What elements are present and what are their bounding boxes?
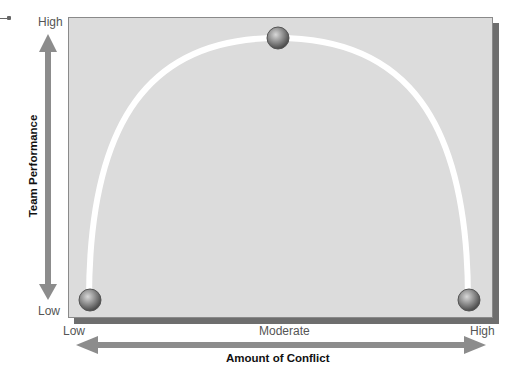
x-low-label: Low: [63, 324, 85, 338]
y-axis-arrow: [39, 34, 57, 300]
x-moderate-label: Moderate: [259, 324, 310, 338]
performance-curve: [89, 38, 468, 300]
marker-high-conflict: [458, 289, 480, 311]
marker-low-conflict: [79, 289, 101, 311]
diagram-graphics: [0, 0, 523, 376]
y-high-label: High: [38, 15, 63, 29]
marker-moderate-conflict: [267, 27, 289, 49]
y-axis-title: Team Performance: [27, 115, 39, 218]
x-axis-title: Amount of Conflict: [226, 352, 329, 364]
x-high-label: High: [470, 324, 495, 338]
y-low-label: Low: [38, 304, 60, 318]
